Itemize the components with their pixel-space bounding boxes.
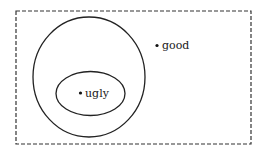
good-label: good	[162, 39, 189, 52]
ugly-label: ugly	[85, 87, 110, 100]
ugly-dot-icon	[79, 91, 82, 94]
good-dot-icon	[155, 44, 158, 47]
outer-set-circle	[33, 17, 145, 137]
point-ugly: ugly	[79, 87, 110, 100]
point-good: good	[155, 39, 189, 52]
universe-dashed-rectangle	[16, 11, 251, 144]
venn-diagram: good ugly	[0, 0, 263, 154]
